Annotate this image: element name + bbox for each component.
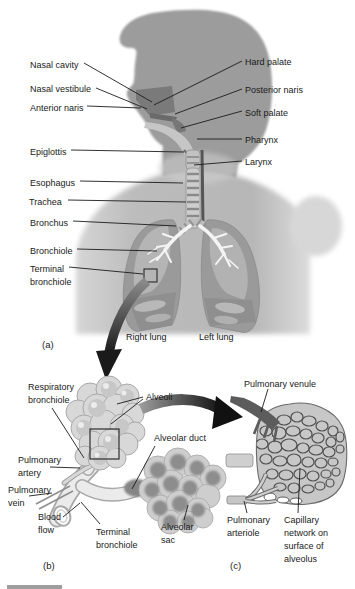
label-alveolar-duct: Alveolar duct [154,432,206,445]
label-alveoli: Alveoli [146,391,173,404]
label-bronchus: Bronchus [30,217,68,230]
label-pulmonary-artery: Pulmonary artery [18,454,70,480]
cropped-bar [7,585,62,589]
label-alveolar-sac: Alveolar sac [161,521,207,547]
label-capillary-network: Capillary network on surface of alveolus [284,514,340,566]
figure-respiratory-system: Nasal cavity Nasal vestibule Anterior na… [0,0,355,589]
label-right-lung: Right lung [126,331,167,344]
panel-c-tag: (c) [230,559,241,572]
label-hard-palate: Hard palate [245,56,292,69]
esophagus-shape [202,150,203,226]
label-esophagus: Esophagus [30,177,75,190]
label-anterior-naris: Anterior naris [30,102,84,115]
label-epiglottis: Epiglottis [30,146,67,159]
label-pharynx: Pharynx [245,134,278,147]
label-terminal-bronchiole-b: Terminal bronchiole [96,526,148,552]
label-soft-palate: Soft palate [245,107,288,120]
label-nasal-vestibule: Nasal vestibule [30,83,91,96]
label-posterior-naris: Posterior naris [245,84,303,97]
label-respiratory-bronchiole: Respiratory bronchiole [28,381,90,407]
label-larynx: Larynx [245,156,272,169]
label-blood-flow: Blood flow [38,511,72,537]
larynx-shape [186,150,200,170]
label-pulmonary-venule: Pulmonary venule [244,378,316,391]
label-left-lung: Left lung [199,331,234,344]
label-trachea: Trachea [29,196,62,209]
label-bronchiole: Bronchiole [30,245,73,258]
label-pulmonary-arteriole: Pulmonary arteriole [227,514,279,540]
label-pulmonary-vein: Pulmonary vein [8,484,60,510]
label-nasal-cavity: Nasal cavity [30,59,79,72]
panel-a-tag: (a) [42,338,54,351]
label-terminal-bronchiole: Terminal bronchiole [30,263,80,289]
panel-b-tag: (b) [43,559,55,572]
